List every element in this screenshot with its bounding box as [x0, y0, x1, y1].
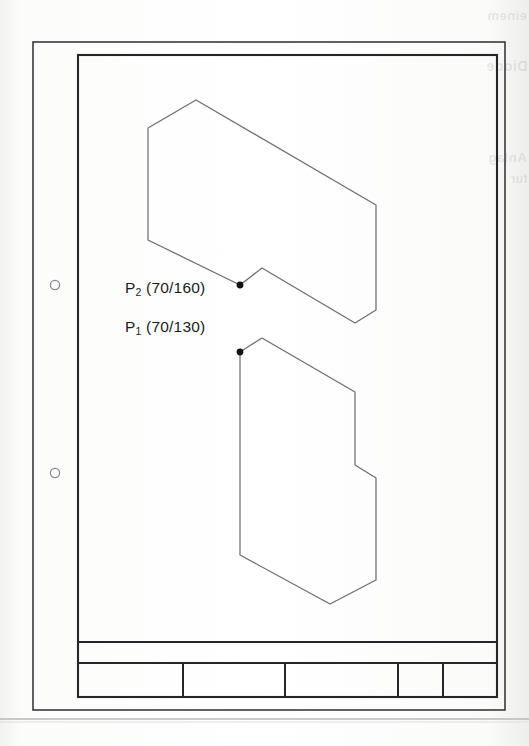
punch-hole-top [50, 280, 59, 289]
annotation-label-p1: P1 (70/130) [125, 318, 205, 336]
lower-polygon [240, 338, 376, 604]
annotation-label-p2-coords: (70/160) [146, 279, 205, 296]
punch-hole-bottom [50, 468, 59, 477]
annotation-label-p1-subscript: 1 [136, 325, 142, 337]
annotation-label-p2: P2 (70/160) [125, 279, 205, 297]
annotation-label-p1-symbol: P [125, 318, 136, 335]
drawing-canvas [0, 0, 529, 746]
inner-frame [78, 55, 497, 697]
point-marker-p1 [237, 349, 244, 356]
annotation-label-p2-symbol: P [125, 279, 136, 296]
annotation-label-p1-coords: (70/130) [146, 318, 205, 335]
point-marker-p2 [237, 282, 244, 289]
annotation-label-p2-subscript: 2 [136, 286, 142, 298]
drawing-page: einem Diode Anlag fur P2 (70/160) [0, 0, 529, 746]
